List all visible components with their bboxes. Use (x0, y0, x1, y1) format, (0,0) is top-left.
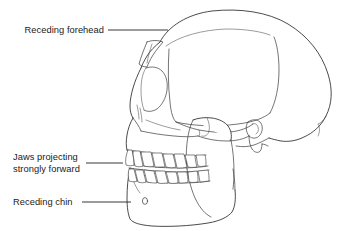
label-jaws-projecting-line2: strongly forward (13, 164, 80, 174)
skull-diagram-svg: Receding forehead Jaws projecting strong… (0, 0, 362, 231)
label-receding-forehead: Receding forehead (25, 25, 104, 35)
label-jaws-projecting-line1: Jaws projecting (13, 152, 78, 162)
orbit (141, 67, 167, 111)
upper-teeth (126, 150, 208, 168)
brow-ridge (139, 41, 163, 69)
lower-teeth (128, 168, 210, 183)
annotation-labels: Receding forehead Jaws projecting strong… (13, 25, 104, 207)
label-receding-chin: Receding chin (13, 197, 73, 207)
skull-diagram-figure: Receding forehead Jaws projecting strong… (0, 0, 362, 231)
mastoid-process (249, 136, 268, 152)
